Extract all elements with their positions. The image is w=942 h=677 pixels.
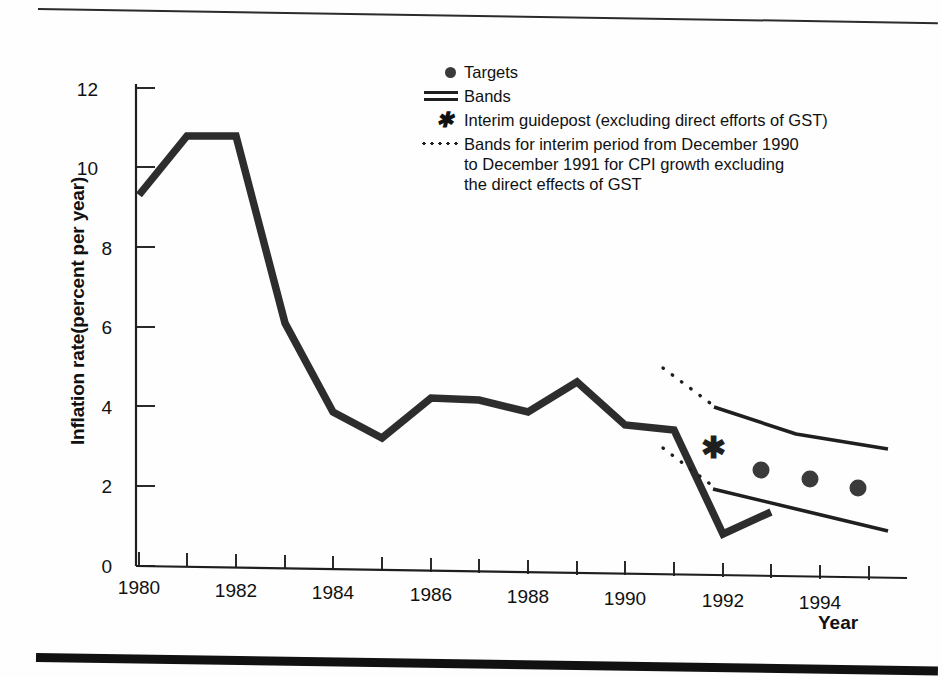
axis-lines [136, 84, 907, 578]
target-marker-1995 [850, 480, 867, 497]
interim-upper-band-dotted [663, 368, 714, 406]
interim-guidepost-asterisk: ✱ [701, 431, 726, 464]
figure-page: Inflation rate(percent per year) Year 0 … [0, 0, 942, 677]
upper-band-line [714, 407, 888, 449]
target-marker-1994 [802, 471, 819, 488]
chart-plot-area: ✱ [0, 0, 942, 677]
y-axis-ticks [136, 88, 155, 566]
target-marker-1993 [753, 462, 770, 479]
inflation-rate-line [139, 136, 771, 534]
